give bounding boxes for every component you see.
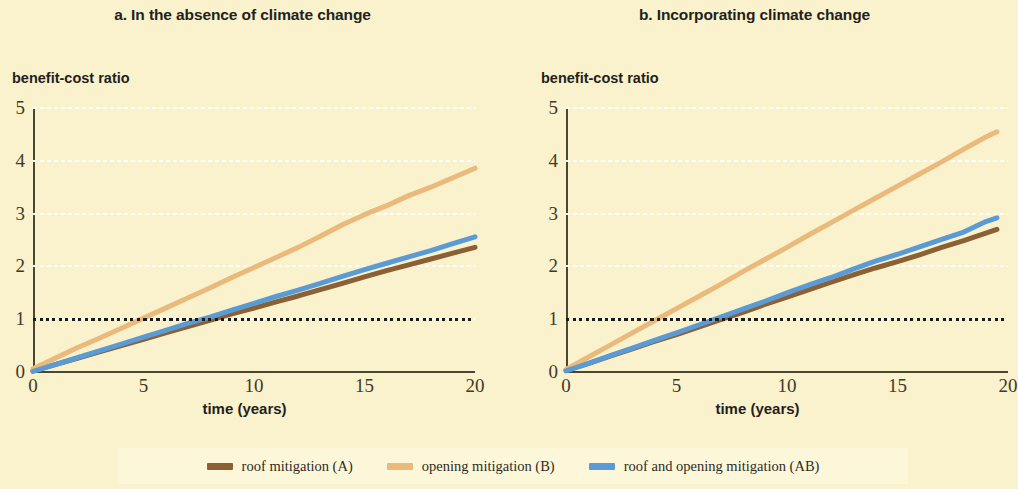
panel-a-x-tick-0: 0 [28,375,38,397]
panel-a-x-tick-10: 10 [245,375,264,397]
panel-b-y-tick-3: 3 [549,203,559,225]
panel-a-x-tick-20: 20 [466,375,485,397]
panel-a-y-tick-2: 2 [16,255,26,277]
panel-b-x-tick-20: 20 [999,375,1018,397]
panel-a-plot-area: 01234505101520 [33,108,475,372]
legend-label-roof_and_opening: roof and opening mitigation (AB) [624,458,820,475]
legend-label-opening: opening mitigation (B) [422,458,555,475]
panel-a-title: a. In the absence of climate change [0,6,509,24]
panel-b-series-2 [566,218,997,371]
legend-swatch-icon-opening [387,463,413,470]
panel-a-y-axis-label: benefit-cost ratio [12,70,130,86]
chart-panel-a: a. In the absence of climate change bene… [0,0,509,440]
legend-swatch-icon-roof_and_opening [589,463,615,470]
panel-b-x-axis-label: time (years) [509,400,1018,417]
panel-b-x-tick-15: 15 [888,375,907,397]
panel-b-y-tick-1: 1 [549,308,559,330]
panel-b-y-tick-2: 2 [549,255,559,277]
legend-item-roof_and_opening[interactable]: roof and opening mitigation (AB) [589,458,820,475]
panel-a-series-2 [33,237,475,372]
figure-root: a. In the absence of climate change bene… [0,0,1018,489]
panel-a-y-tick-0: 0 [16,361,26,383]
legend-swatch-icon-roof [207,463,233,470]
panel-b-series-layer [566,108,1008,372]
panel-b-y-tick-0: 0 [549,361,559,383]
panel-b-x-tick-0: 0 [561,375,571,397]
panel-a-y-tick-4: 4 [16,150,26,172]
legend-label-roof: roof mitigation (A) [242,458,353,475]
panel-a-x-tick-15: 15 [355,375,374,397]
panel-b-y-axis-label: benefit-cost ratio [541,70,659,86]
panel-b-x-tick-10: 10 [778,375,797,397]
panel-a-x-axis-label: time (years) [0,400,509,417]
panel-b-threshold-line [566,318,1008,321]
legend-item-roof[interactable]: roof mitigation (A) [207,458,353,475]
panel-a-y-tick-3: 3 [16,203,26,225]
chart-legend: roof mitigation (A)opening mitigation (B… [118,448,908,484]
panel-b-y-tick-4: 4 [549,150,559,172]
panel-a-series-layer [33,108,475,372]
panel-a-series-1 [33,168,475,369]
chart-panel-b: b. Incorporating climate change benefit-… [509,0,1018,440]
panel-b-y-tick-5: 5 [549,97,559,119]
panel-a-x-tick-5: 5 [139,375,149,397]
legend-item-opening[interactable]: opening mitigation (B) [387,458,555,475]
panel-b-x-tick-5: 5 [672,375,682,397]
panel-a-y-tick-5: 5 [16,97,26,119]
panel-b-plot-area: 01234505101520 [566,108,1008,372]
panel-a-threshold-line [33,318,475,321]
panel-a-y-tick-1: 1 [16,308,26,330]
panel-b-title: b. Incorporating climate change [509,6,1018,24]
